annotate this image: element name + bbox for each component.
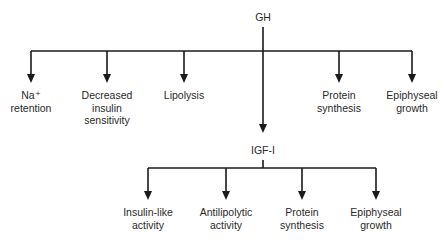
gh-effect-1: Decreasedinsulinsensitivity [82,89,133,127]
gh-effect-0: Na⁺retention [11,89,52,114]
gh-effect-3: Proteinsynthesis [317,89,361,114]
effect-label-line: Decreased [82,89,133,102]
gh-effect-4: Epiphysealgrowth [386,89,437,114]
igf1-effect-2: Proteinsynthesis [280,206,324,231]
effect-label-line: Na⁺ [11,89,52,102]
effect-label-line: Lipolysis [164,89,204,102]
gh-effect-2: Lipolysis [164,89,204,102]
effect-label-line: growth [386,102,437,115]
effect-label-line: Antilipolytic [200,206,253,219]
effect-label-line: Epiphyseal [350,206,401,219]
igf1-effect-1: Antilipolyticactivity [200,206,253,231]
effect-label-line: synthesis [317,102,361,115]
igf1-effect-3: Epiphysealgrowth [350,206,401,231]
effect-label-line: Insulin-like [123,206,173,219]
effect-label-line: sensitivity [82,114,133,127]
igf1-node: IGF-I [251,144,275,157]
effect-label-line: Epiphyseal [386,89,437,102]
effect-label-line: synthesis [280,219,324,232]
effect-label-line: Protein [317,89,361,102]
effect-label-line: activity [200,219,253,232]
effect-label-line: activity [123,219,173,232]
effect-label-line: Protein [280,206,324,219]
effect-label-line: insulin [82,102,133,115]
effect-label-line: growth [350,219,401,232]
effect-label-line: retention [11,102,52,115]
igf1-effect-0: Insulin-likeactivity [123,206,173,231]
gh-node: GH [255,11,271,24]
